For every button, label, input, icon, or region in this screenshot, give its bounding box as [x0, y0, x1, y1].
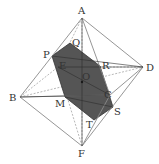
hidden-edge-BE: [20, 67, 58, 97]
label-r: R: [102, 60, 110, 71]
label-e: E: [59, 60, 66, 71]
label-q: Q: [72, 37, 80, 48]
label-c: C: [104, 89, 112, 100]
label-b: B: [9, 92, 16, 103]
label-f: F: [78, 148, 85, 159]
label-m: M: [55, 98, 65, 109]
label-a: A: [77, 5, 86, 16]
label-d: D: [146, 62, 154, 73]
edge-BF: [20, 97, 82, 146]
octahedron-diagram: ABCDEFOPQRSTM: [0, 0, 159, 164]
edges-over-section: [20, 18, 143, 146]
label-p: P: [43, 49, 50, 60]
label-t: T: [86, 119, 93, 130]
label-o: O: [82, 71, 90, 82]
label-s: S: [114, 106, 121, 117]
